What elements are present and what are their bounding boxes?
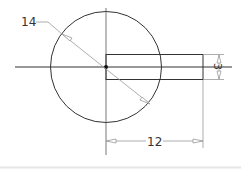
diameter-dimension xyxy=(36,22,150,104)
technical-drawing: 14 3 12 xyxy=(0,0,241,169)
height-label: 3 xyxy=(211,63,224,70)
length-label: 12 xyxy=(147,135,162,149)
diameter-label: 14 xyxy=(21,15,36,29)
center-point xyxy=(104,65,108,69)
